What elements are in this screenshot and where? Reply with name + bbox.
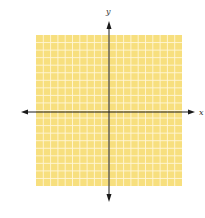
y-axis-arrow-down-icon bbox=[107, 194, 112, 202]
x-axis-label: x bbox=[199, 108, 204, 117]
coordinate-plane: x y bbox=[0, 0, 205, 218]
y-axis-label: y bbox=[105, 7, 111, 16]
x-axis-arrow-left-icon bbox=[21, 110, 28, 115]
x-axis-arrow-right-icon bbox=[188, 110, 195, 115]
y-axis-arrow-up-icon bbox=[107, 21, 112, 29]
